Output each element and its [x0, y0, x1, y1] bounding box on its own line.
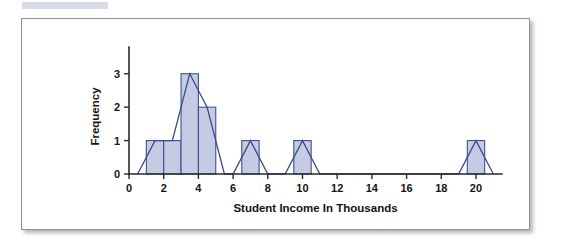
y-tick-label: 3 [114, 68, 120, 80]
histogram-bar [198, 107, 215, 174]
histogram-bar [146, 141, 163, 174]
histogram-bar [294, 141, 311, 174]
x-tick-label: 14 [366, 182, 379, 194]
x-tick-label: 8 [265, 182, 271, 194]
y-axis-title: Frequency [89, 87, 101, 146]
x-axis-title: Student Income In Thousands [233, 202, 397, 214]
x-tick-label: 20 [470, 182, 482, 194]
x-tick-label: 4 [195, 182, 202, 194]
y-tick-label: 2 [114, 101, 120, 113]
y-tick-label: 1 [114, 135, 120, 147]
top-tab-strip [22, 2, 108, 9]
x-tick-label: 18 [435, 182, 447, 194]
histogram-bar [164, 141, 181, 174]
x-tick-label: 6 [230, 182, 236, 194]
x-tick-label: 12 [331, 182, 343, 194]
x-tick-label: 10 [296, 182, 308, 194]
histogram-bar [181, 74, 198, 174]
histogram-chart: 024681012141618200123Student Income In T… [22, 19, 531, 231]
y-tick-label: 0 [114, 168, 120, 180]
chart-svg: 024681012141618200123Student Income In T… [22, 19, 531, 231]
figure-card: 024681012141618200123Student Income In T… [21, 18, 530, 230]
x-tick-label: 2 [161, 182, 167, 194]
histogram-bar [467, 141, 484, 174]
x-tick-label: 16 [400, 182, 412, 194]
x-tick-label: 0 [126, 182, 132, 194]
histogram-bar [242, 141, 259, 174]
